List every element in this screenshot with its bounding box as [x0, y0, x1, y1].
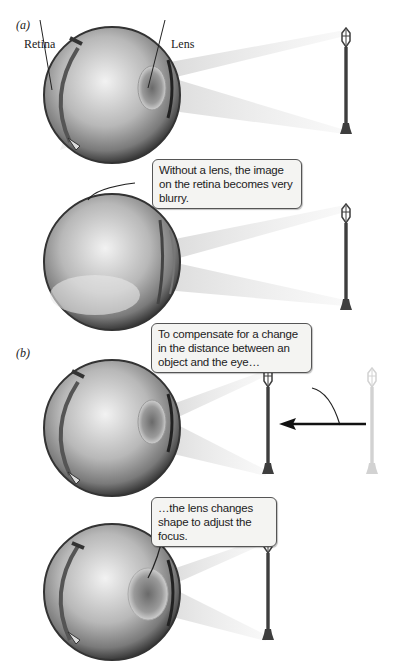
callout-compensate: To compensate for a change in the distan…: [151, 323, 312, 373]
eye-b1: [44, 360, 180, 496]
lamp-post-icon-b2: [262, 534, 274, 640]
panel-label-b: (b): [16, 346, 30, 361]
eye-a2-no-lens: [44, 194, 180, 330]
callout-no-lens: Without a lens, the image on the retina …: [152, 159, 302, 209]
callout-compensate-pointer: [312, 388, 340, 425]
lamp-post-icon-near: [262, 368, 274, 474]
lamp-post-icon-a1: [340, 28, 352, 134]
beam-a2: [165, 205, 345, 306]
lens-label: Lens: [171, 37, 194, 52]
move-closer-arrow-icon: [279, 418, 366, 430]
lamp-post-icon-far-ghost: [366, 368, 378, 474]
panel-label-a: (a): [16, 18, 30, 33]
eye-a1: [44, 27, 180, 163]
lamp-post-icon-a2: [340, 204, 352, 310]
callout-lens-changes: …the lens changes shape to adjust the fo…: [151, 497, 277, 547]
retina-label: Retina: [24, 37, 55, 52]
